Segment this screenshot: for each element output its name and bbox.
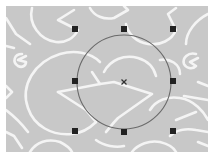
handle-middle-left[interactable] bbox=[72, 78, 78, 84]
handle-bottom-right[interactable] bbox=[170, 128, 176, 134]
handle-bottom-center[interactable] bbox=[121, 129, 127, 135]
drawing-canvas[interactable] bbox=[0, 0, 210, 158]
handle-middle-right[interactable] bbox=[170, 78, 176, 84]
handle-bottom-left[interactable] bbox=[72, 128, 78, 134]
handle-top-left[interactable] bbox=[72, 26, 78, 32]
handle-top-center[interactable] bbox=[121, 26, 127, 32]
handle-top-right[interactable] bbox=[170, 26, 176, 32]
